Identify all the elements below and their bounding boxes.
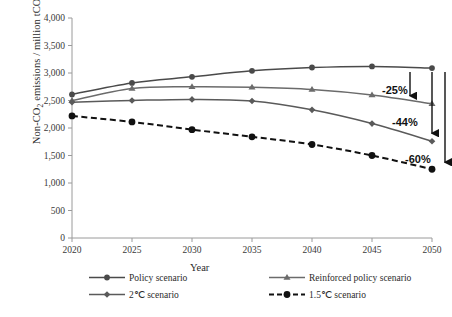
legend-marker-icon xyxy=(88,272,126,283)
annotation-layer: -25%-44%-60% xyxy=(382,72,445,165)
y-tick-label: 3,500 xyxy=(44,41,66,51)
series-layer xyxy=(69,64,436,173)
data-point-marker xyxy=(249,68,255,74)
y-axis-title-text: Non-CO xyxy=(31,107,42,144)
x-tick-label: 2045 xyxy=(363,245,382,255)
data-point-marker xyxy=(189,126,196,133)
x-tick-label: 2050 xyxy=(423,245,442,255)
y-axis-title: Non-CO2 emissions / million tCO2e xyxy=(31,0,45,167)
annotation-label: -60% xyxy=(405,153,431,165)
legend-item-4[interactable]: 1.5℃ scenario xyxy=(268,289,366,300)
legend-label: Policy scenario xyxy=(129,273,187,283)
legend-item-1[interactable]: Policy scenario xyxy=(88,272,187,283)
data-point-marker xyxy=(249,133,256,140)
series-4 xyxy=(69,113,436,173)
legend-marker-icon xyxy=(268,272,306,283)
legend-marker-icon xyxy=(88,289,126,300)
x-tick-label: 2020 xyxy=(63,245,82,255)
y-tick-label: 1,000 xyxy=(44,178,66,188)
legend-label: 1.5℃ scenario xyxy=(309,289,366,300)
data-point-marker xyxy=(69,113,76,120)
x-tick-label: 2040 xyxy=(303,245,322,255)
data-point-marker xyxy=(104,275,110,281)
y-tick-label: 3,000 xyxy=(44,68,66,78)
data-point-marker xyxy=(249,98,256,105)
y-tick-label: 2,500 xyxy=(44,96,66,106)
y-axis-title-mid: emissions / million tCO xyxy=(31,0,42,104)
legend-label: 2℃ scenario xyxy=(129,289,179,300)
data-point-marker xyxy=(104,291,111,298)
y-tick-label: 0 xyxy=(60,233,65,243)
data-point-marker xyxy=(189,74,195,80)
y-tick-label: 1,500 xyxy=(44,151,66,161)
y-axis-ticks: 05001,0001,5002,0002,5003,0003,5004,000 xyxy=(44,13,72,243)
data-point-marker xyxy=(284,291,291,298)
data-point-marker xyxy=(189,96,196,103)
legend-item-3[interactable]: 2℃ scenario xyxy=(88,289,179,300)
legend-item-2[interactable]: Reinforced policy scenario xyxy=(268,272,411,283)
chart-container: 05001,0001,5002,0002,5003,0003,5004,000 … xyxy=(0,0,452,317)
data-point-marker xyxy=(369,152,376,159)
series-1 xyxy=(69,64,435,98)
y-tick-label: 500 xyxy=(51,206,66,216)
data-point-marker xyxy=(309,107,316,114)
data-point-marker xyxy=(429,166,436,173)
x-tick-label: 2035 xyxy=(243,245,262,255)
x-tick-label: 2025 xyxy=(123,245,142,255)
data-point-marker xyxy=(429,138,436,145)
data-point-marker xyxy=(129,119,136,126)
annotation-label: -25% xyxy=(382,84,408,96)
x-tick-label: 2030 xyxy=(183,245,202,255)
line-chart: 05001,0001,5002,0002,5003,0003,5004,000 … xyxy=(0,0,452,317)
data-point-marker xyxy=(369,64,375,70)
data-point-marker xyxy=(129,97,136,104)
data-point-marker xyxy=(69,92,75,98)
data-point-marker xyxy=(429,65,435,71)
series-line xyxy=(72,116,432,169)
x-axis-ticks: 2020202520302035204020452050 xyxy=(63,238,442,255)
legend-marker-icon xyxy=(268,289,306,300)
data-point-marker xyxy=(309,141,316,148)
annotation-label: -44% xyxy=(392,116,418,128)
y-tick-label: 4,000 xyxy=(44,13,66,23)
legend-label: Reinforced policy scenario xyxy=(309,273,411,283)
data-point-marker xyxy=(309,65,315,71)
data-point-marker xyxy=(369,120,376,127)
chart-legend: Policy scenarioReinforced policy scenari… xyxy=(0,272,452,317)
y-axis-title-sub-1: 2 xyxy=(36,104,45,108)
y-tick-label: 2,000 xyxy=(44,123,66,133)
